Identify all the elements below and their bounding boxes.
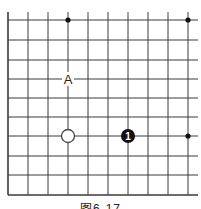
board-grid [8,12,198,195]
white-stone-icon [62,130,75,143]
marker-label: A [64,72,73,87]
go-board: A 1 [0,0,201,209]
star-point-icon [185,17,190,22]
star-point-icon [185,133,190,138]
board-markers: A [62,72,74,87]
star-point-icon [65,17,70,22]
stone-number-label: 1 [125,131,131,142]
figure-caption: 图6-17 [0,199,201,209]
